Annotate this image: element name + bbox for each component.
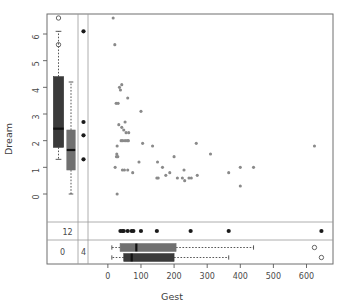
x-tick-label-3: 300 xyxy=(200,272,215,281)
x-missing-marker xyxy=(319,229,323,233)
boxplot-gest-y-missing xyxy=(112,244,317,252)
scatter-point xyxy=(117,123,120,126)
plot-canvas: 01234560100200300400500600GestDream1204 xyxy=(0,0,345,308)
x-tick-label-1: 100 xyxy=(133,272,148,281)
scatter-point xyxy=(127,139,130,142)
y-missing-marker xyxy=(81,29,85,33)
x-missing-marker xyxy=(122,229,126,233)
scatter-point xyxy=(190,176,193,179)
x-missing-marker xyxy=(139,229,143,233)
y-tick-label-0: 0 xyxy=(32,194,41,199)
y-missing-marker xyxy=(81,120,85,124)
scatter-point xyxy=(141,142,144,145)
scatter-point xyxy=(209,152,212,155)
scatter-point xyxy=(126,96,129,99)
scatter-point xyxy=(182,168,185,171)
scatter-point xyxy=(123,168,126,171)
scatter-point xyxy=(151,144,154,147)
boxplot-gest-observed xyxy=(112,254,324,262)
scatter-point xyxy=(161,166,164,169)
box xyxy=(120,244,176,252)
scatter-point xyxy=(120,83,123,86)
outlier-marker xyxy=(56,16,60,20)
scatter-point xyxy=(173,155,176,158)
scatter-point xyxy=(139,110,142,113)
y-tick-label-6: 6 xyxy=(32,34,41,39)
x-missing-marker xyxy=(227,229,231,233)
scatter-point xyxy=(113,43,116,46)
scatter-point xyxy=(183,179,186,182)
scatter-point xyxy=(127,131,130,134)
scatter-point xyxy=(164,174,167,177)
marginplot-figure: 01234560100200300400500600GestDream1204 xyxy=(0,0,345,308)
scatter-point xyxy=(115,152,118,155)
y-missing-marker xyxy=(81,157,85,161)
x-missing-marker xyxy=(126,229,130,233)
count-x-missing: 4 xyxy=(81,248,86,257)
scatter-point xyxy=(176,176,179,179)
x-tick-label-0: 0 xyxy=(105,272,110,281)
x-tick-label-6: 600 xyxy=(299,272,314,281)
scatter-point xyxy=(112,16,115,19)
box xyxy=(53,77,63,148)
scatter-point xyxy=(116,155,119,158)
scatter-point xyxy=(124,120,127,123)
count-y-missing: 12 xyxy=(62,228,72,237)
scatter-point xyxy=(118,86,121,89)
scatter-points-group xyxy=(112,16,316,195)
y-tick-label-3: 3 xyxy=(32,114,41,119)
outlier-marker xyxy=(319,255,323,259)
scatter-point xyxy=(239,184,242,187)
x-missing-marker xyxy=(155,229,159,233)
count-both-missing: 0 xyxy=(60,248,65,257)
y-tick-label-4: 4 xyxy=(32,88,41,93)
scatter-point xyxy=(131,171,134,174)
scatter-point xyxy=(156,160,159,163)
scatter-point xyxy=(114,166,117,169)
y-axis-label: Dream xyxy=(3,123,14,155)
x-tick-label-4: 400 xyxy=(233,272,248,281)
scatter-point xyxy=(157,176,160,179)
x-tick-label-2: 200 xyxy=(166,272,181,281)
scatter-point xyxy=(126,168,129,171)
scatter-point xyxy=(196,174,199,177)
scatter-point xyxy=(168,171,171,174)
scatter-point xyxy=(120,126,123,129)
scatter-point xyxy=(116,144,119,147)
scatter-point xyxy=(227,171,230,174)
scatter-point xyxy=(313,144,316,147)
x-missing-marker xyxy=(189,229,193,233)
scatter-point xyxy=(122,128,125,131)
scatter-point xyxy=(181,176,184,179)
plot-frame xyxy=(47,14,333,264)
y-tick-label-2: 2 xyxy=(32,141,41,146)
outlier-marker xyxy=(312,245,316,249)
x-axis-label: Gest xyxy=(161,291,183,302)
scatter-point xyxy=(137,160,140,163)
x-tick-label-5: 500 xyxy=(266,272,281,281)
scatter-point xyxy=(117,102,120,105)
y-tick-label-1: 1 xyxy=(32,168,41,173)
scatter-point xyxy=(119,88,122,91)
scatter-point xyxy=(252,166,255,169)
scatter-point xyxy=(195,142,198,145)
boxplot-dream-x-missing xyxy=(67,82,75,194)
x-missing-marker xyxy=(131,229,135,233)
scatter-point xyxy=(239,166,242,169)
scatter-point xyxy=(125,131,128,134)
y-missing-marker xyxy=(81,133,85,137)
boxplot-dream-observed xyxy=(53,16,63,160)
y-tick-label-5: 5 xyxy=(32,61,41,66)
scatter-point xyxy=(116,192,119,195)
